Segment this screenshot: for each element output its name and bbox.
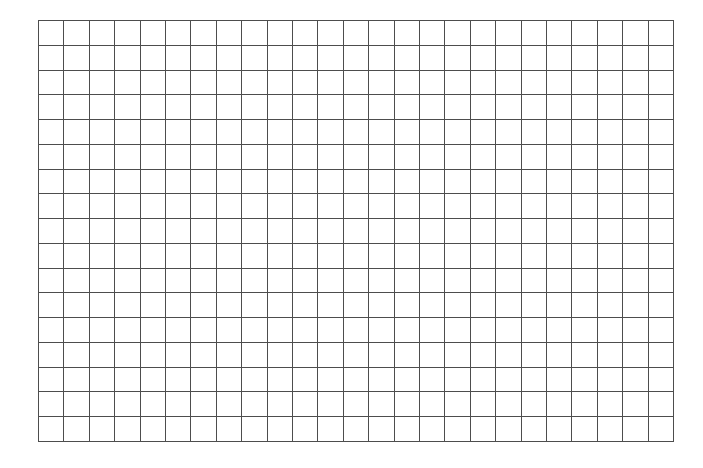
graph-paper-grid — [38, 20, 674, 442]
grid-lines — [38, 20, 674, 442]
